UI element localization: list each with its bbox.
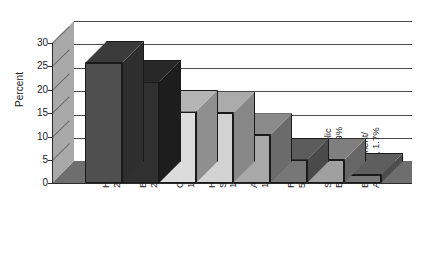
chart-container: Percent 30 25 20 15 10 5 0 (0, 0, 432, 274)
bar-side-face (122, 41, 144, 183)
bar-front-face (85, 63, 122, 183)
y-axis-line (52, 43, 53, 184)
bar-health (85, 63, 122, 183)
gridline (74, 21, 412, 22)
